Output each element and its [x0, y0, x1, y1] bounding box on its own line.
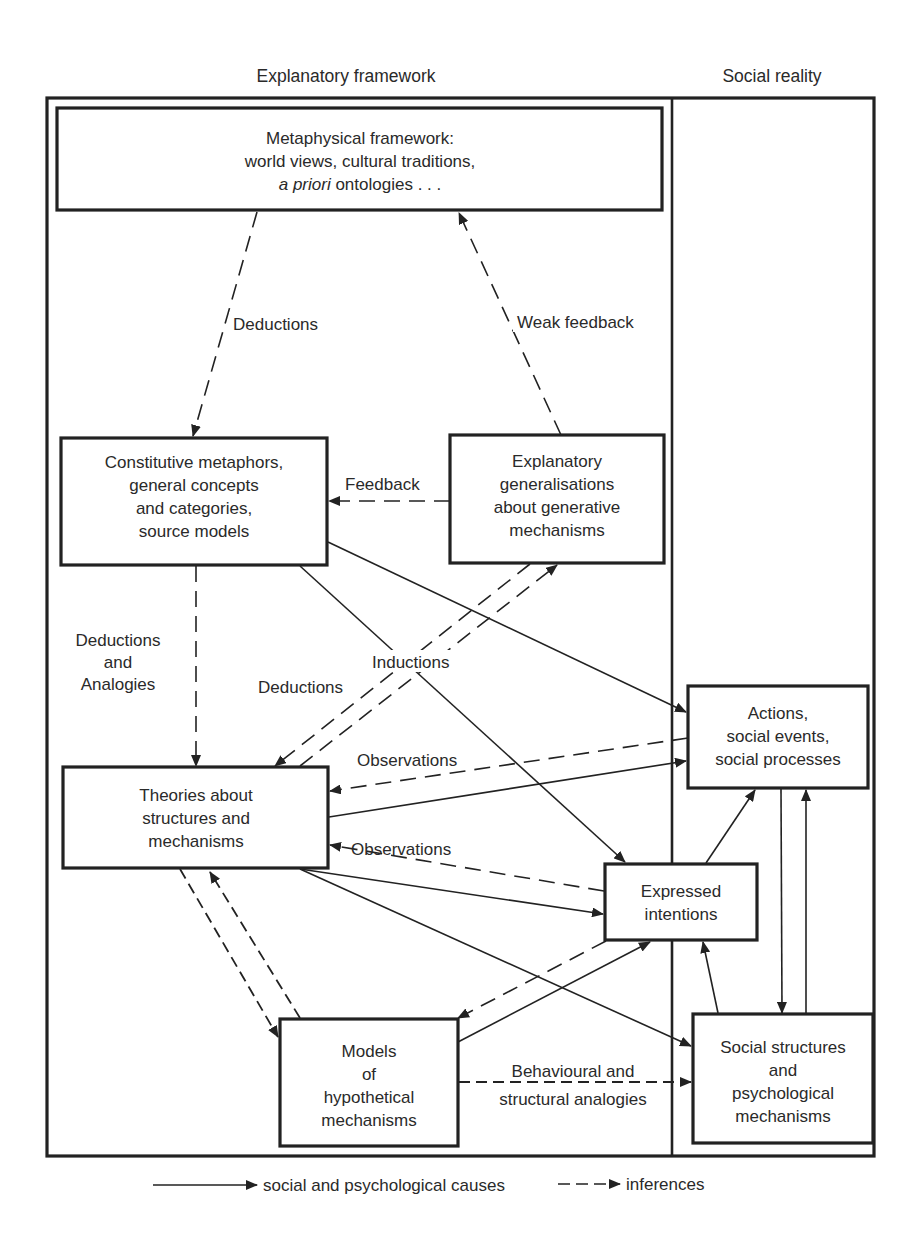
box-theories-line: Theories about	[139, 786, 253, 805]
legend: social and psychological causes inferenc…	[153, 1175, 704, 1195]
label-deductions-mid: Deductions	[258, 678, 343, 697]
edge-expressed-to-models	[458, 941, 606, 1018]
box-models-line: Models	[342, 1042, 397, 1061]
legend-solid-label: social and psychological causes	[263, 1176, 505, 1195]
edge-social-structures-to-expressed	[703, 942, 718, 1013]
legend-dashed-label: inferences	[626, 1175, 704, 1194]
label-observations-upper: Observations	[357, 751, 457, 770]
label-deductions-analogies: Deductions	[75, 631, 160, 650]
header-social-reality: Social reality	[722, 66, 821, 86]
box-theories-line: structures and	[142, 809, 250, 828]
box-constitutive-line: general concepts	[129, 476, 258, 495]
box-constitutive-line: source models	[139, 522, 250, 541]
box-models-line: of	[362, 1065, 376, 1084]
label-deductions-analogies: and	[104, 653, 132, 672]
label-structural-analogies: structural analogies	[499, 1090, 646, 1109]
edge-theories-to-models	[180, 869, 278, 1037]
box-theories: Theories about structures and mechanisms	[63, 767, 328, 868]
label-observations-lower: Observations	[351, 840, 451, 859]
box-metaphysical-line3: a priori ontologies . . .	[279, 175, 442, 194]
box-actions-line: social events,	[727, 727, 830, 746]
box-social-structures-line: psychological	[732, 1084, 834, 1103]
label-deductions-analogies: Analogies	[81, 675, 156, 694]
edge-constitutive-to-expressed	[300, 566, 625, 862]
edge-constitutive-to-actions	[328, 542, 686, 712]
box-explanatory-line: generalisations	[500, 475, 614, 494]
box-metaphysical-line1: Metaphysical framework:	[266, 129, 454, 148]
diagram-canvas: Explanatory framework Social reality	[0, 0, 920, 1238]
header-explanatory-framework: Explanatory framework	[257, 66, 436, 86]
box-models-line: hypothetical	[324, 1088, 415, 1107]
edge-models-to-expressed	[458, 942, 650, 1042]
box-expressed-line: Expressed	[641, 882, 721, 901]
box-models: Models of hypothetical mechanisms	[280, 1019, 458, 1146]
label-deductions-top: Deductions	[233, 315, 318, 334]
edge-labels: Deductions Weak feedback Feedback Deduct…	[75, 310, 648, 1109]
box-social-structures-line: and	[769, 1061, 797, 1080]
box-actions-line: Actions,	[748, 704, 808, 723]
box-actions: Actions, social events, social processes	[688, 686, 868, 788]
outer-frame	[47, 98, 874, 1156]
label-inductions: Inductions	[372, 653, 450, 672]
label-behavioural: Behavioural and	[512, 1062, 635, 1081]
box-explanatory-line: about generative	[494, 498, 621, 517]
box-expressed-line: intentions	[645, 905, 718, 924]
edge-expressed-to-actions	[706, 790, 755, 863]
box-constitutive-line: and categories,	[136, 499, 252, 518]
box-social-structures: Social structures and psychological mech…	[693, 1014, 873, 1143]
label-weak-feedback: Weak feedback	[517, 313, 634, 332]
box-constitutive-metaphors: Constitutive metaphors, general concepts…	[61, 438, 327, 565]
edge-actions-to-social-structures	[781, 789, 782, 1013]
box-theories-line: mechanisms	[148, 832, 243, 851]
box-metaphysical-line2: world views, cultural traditions,	[244, 152, 476, 171]
box-constitutive-line: Constitutive metaphors,	[105, 453, 284, 472]
label-feedback: Feedback	[345, 475, 420, 494]
box-metaphysical-framework: Metaphysical framework: world views, cul…	[57, 108, 662, 210]
box-expressed-intentions: Expressed intentions	[605, 864, 757, 940]
box-explanatory-line: Explanatory	[512, 452, 602, 471]
box-actions-line: social processes	[715, 750, 841, 769]
box-social-structures-line: mechanisms	[735, 1107, 830, 1126]
box-explanatory-line: mechanisms	[509, 521, 604, 540]
edge-theories-to-expressed	[300, 869, 603, 914]
edges	[180, 212, 806, 1082]
box-explanatory-generalisations: Explanatory generalisations about genera…	[450, 435, 664, 563]
box-social-structures-line: Social structures	[720, 1038, 846, 1057]
box-models-line: mechanisms	[321, 1111, 416, 1130]
